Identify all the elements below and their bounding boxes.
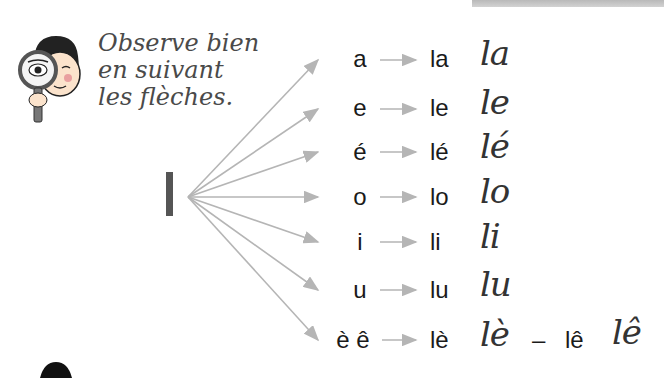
vowel-a: a (340, 44, 380, 74)
cursive-li: li (480, 221, 500, 251)
cursive-le: le (480, 87, 509, 117)
vowel-i: i (340, 227, 380, 257)
vowel-e: e (340, 93, 380, 123)
syllable-le-circ: lê (565, 325, 584, 355)
syllable-le-grave: lè (430, 325, 449, 355)
cursive-le-grave: lè (480, 319, 509, 349)
mascot-head-partial-icon (36, 358, 76, 378)
dash-separator: – (532, 325, 545, 355)
vowel-e-acute: é (340, 137, 380, 167)
cursive-le-circ: lê (612, 317, 641, 347)
vowel-e-grave-circ: è ê (326, 325, 380, 355)
syllable-li: li (430, 227, 441, 257)
cursive-la: la (480, 38, 509, 68)
syllable-le: le (430, 93, 449, 123)
syllable-la: la (430, 44, 449, 74)
vowel-o: o (340, 182, 380, 212)
syllable-lu: lu (430, 275, 449, 305)
syllable-lo: lo (430, 182, 449, 212)
cursive-lu: lu (480, 269, 511, 299)
cursive-lo: lo (480, 176, 509, 206)
vowel-u: u (340, 275, 380, 305)
syllable-le-acute: lé (430, 137, 449, 167)
cursive-le-acute: lé (480, 131, 509, 161)
